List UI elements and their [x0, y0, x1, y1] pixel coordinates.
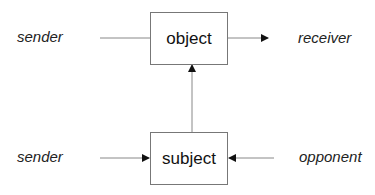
subject-node-label: subject: [162, 149, 216, 169]
object-node: object: [150, 12, 228, 65]
object-node-label: object: [166, 29, 211, 49]
opponent-label: opponent: [299, 148, 362, 166]
sender-top-label: sender: [17, 28, 63, 46]
receiver-label: receiver: [298, 29, 351, 47]
sender-bottom-label: sender: [17, 148, 63, 166]
subject-node: subject: [150, 132, 228, 185]
